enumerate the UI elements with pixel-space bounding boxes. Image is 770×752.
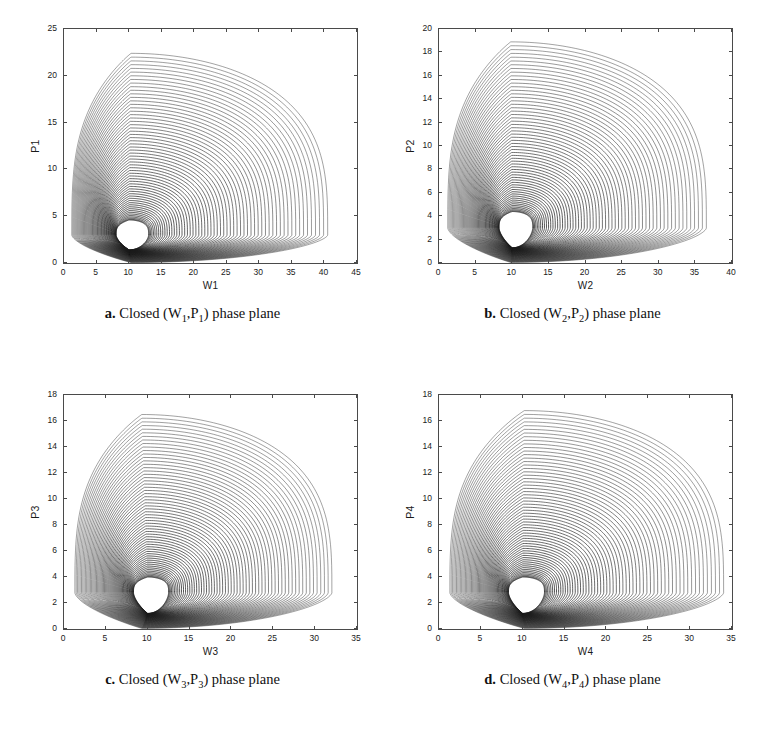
x-tick-top-d xyxy=(564,394,565,398)
x-tick-top-b xyxy=(731,28,732,32)
x-tick-label-b-0: 0 xyxy=(436,268,441,277)
y-tick-label-d-6: 12 xyxy=(423,468,432,477)
y-tick-right-b xyxy=(729,239,733,240)
y-tick-label-d-9: 18 xyxy=(423,390,432,399)
caption-post-b: ) phase plane xyxy=(584,305,661,321)
x-tick-a xyxy=(323,260,324,264)
x-tick-label-c-5: 25 xyxy=(268,634,277,643)
caption-post-a: ) phase plane xyxy=(204,305,281,321)
x-tick-b xyxy=(585,260,586,264)
x-tick-top-a xyxy=(356,28,357,32)
caption-mid-b: ,P xyxy=(567,305,579,321)
y-tick-right-b xyxy=(729,75,733,76)
x-tick-b xyxy=(731,260,732,264)
axes-box-c xyxy=(63,394,358,630)
x-tick-d xyxy=(731,626,732,630)
x-tick-a xyxy=(161,260,162,264)
x-tick-label-a-3: 15 xyxy=(156,268,165,277)
y-tick-d xyxy=(438,446,442,447)
y-tick-right-c xyxy=(354,524,358,525)
x-tick-top-c xyxy=(147,394,148,398)
panel-b: P2 W2 024681012141618200510152025303540 … xyxy=(385,0,770,366)
x-tick-d xyxy=(564,626,565,630)
x-tick-a xyxy=(226,260,227,264)
x-tick-top-a xyxy=(193,28,194,32)
y-tick-right-d xyxy=(729,420,733,421)
y-tick-label-b-7: 14 xyxy=(423,94,432,103)
y-tick-c xyxy=(63,446,67,447)
y-tick-right-b xyxy=(729,51,733,52)
x-tick-top-d xyxy=(438,394,439,398)
y-tick-label-c-2: 4 xyxy=(52,572,57,581)
y-axis-title-d: P4 xyxy=(403,505,415,518)
x-tick-label-d-7: 35 xyxy=(726,634,735,643)
x-tick-top-c xyxy=(189,394,190,398)
plot-c: P3 W3 02468101214161805101520253035 xyxy=(63,394,358,630)
x-tick-label-b-7: 35 xyxy=(690,268,699,277)
y-tick-c xyxy=(63,524,67,525)
y-tick-b xyxy=(438,98,442,99)
x-tick-c xyxy=(272,626,273,630)
panel-d: P4 W4 02468101214161805101520253035 d. C… xyxy=(385,366,770,732)
orbit-family-d xyxy=(439,395,732,629)
x-tick-label-d-5: 25 xyxy=(643,634,652,643)
x-tick-a xyxy=(291,260,292,264)
y-tick-right-a xyxy=(354,122,358,123)
x-tick-label-a-6: 30 xyxy=(254,268,263,277)
x-axis-title-b: W2 xyxy=(578,280,594,291)
y-tick-label-d-0: 0 xyxy=(427,624,432,633)
x-tick-label-a-9: 45 xyxy=(351,268,360,277)
y-tick-label-c-3: 6 xyxy=(52,546,57,555)
x-tick-label-b-4: 20 xyxy=(580,268,589,277)
x-tick-top-b xyxy=(511,28,512,32)
y-tick-label-d-4: 8 xyxy=(427,520,432,529)
y-tick-b xyxy=(438,215,442,216)
y-tick-d xyxy=(438,524,442,525)
x-tick-d xyxy=(522,626,523,630)
x-tick-b xyxy=(658,260,659,264)
x-tick-label-c-0: 0 xyxy=(61,634,66,643)
x-tick-a xyxy=(356,260,357,264)
y-tick-right-d xyxy=(729,602,733,603)
x-tick-top-a xyxy=(226,28,227,32)
x-tick-top-d xyxy=(647,394,648,398)
y-tick-label-a-5: 25 xyxy=(48,24,57,33)
y-tick-right-b xyxy=(729,215,733,216)
y-axis-title-b: P2 xyxy=(403,139,415,152)
x-tick-b xyxy=(694,260,695,264)
x-tick-d xyxy=(689,626,690,630)
y-tick-d xyxy=(438,472,442,473)
y-tick-label-b-5: 10 xyxy=(423,141,432,150)
caption-pre-c: Closed (W xyxy=(119,671,181,687)
y-tick-b xyxy=(438,51,442,52)
x-tick-c xyxy=(314,626,315,630)
y-tick-right-c xyxy=(354,472,358,473)
plot-b: P2 W2 024681012141618200510152025303540 xyxy=(438,28,733,264)
y-tick-a xyxy=(63,122,67,123)
x-tick-label-a-8: 40 xyxy=(319,268,328,277)
x-tick-label-c-2: 10 xyxy=(142,634,151,643)
x-tick-top-b xyxy=(621,28,622,32)
y-tick-label-c-5: 10 xyxy=(48,494,57,503)
orbit-family-b xyxy=(439,29,732,263)
y-tick-right-d xyxy=(729,498,733,499)
y-tick-label-c-4: 8 xyxy=(52,520,57,529)
y-tick-a xyxy=(63,215,67,216)
y-tick-label-b-0: 0 xyxy=(427,258,432,267)
caption-mid-a: ,P xyxy=(187,305,199,321)
y-tick-d xyxy=(438,498,442,499)
x-tick-a xyxy=(258,260,259,264)
axes-box-b xyxy=(438,28,733,264)
y-tick-b xyxy=(438,145,442,146)
x-tick-label-c-6: 30 xyxy=(309,634,318,643)
x-tick-top-c xyxy=(63,394,64,398)
y-tick-b xyxy=(438,239,442,240)
x-tick-a xyxy=(128,260,129,264)
caption-post-c: ) phase plane xyxy=(203,671,280,687)
y-tick-right-c xyxy=(354,420,358,421)
y-tick-label-d-5: 10 xyxy=(423,494,432,503)
y-tick-c xyxy=(63,498,67,499)
x-tick-d xyxy=(647,626,648,630)
y-axis-title-a: P1 xyxy=(28,139,40,152)
x-tick-top-b xyxy=(585,28,586,32)
